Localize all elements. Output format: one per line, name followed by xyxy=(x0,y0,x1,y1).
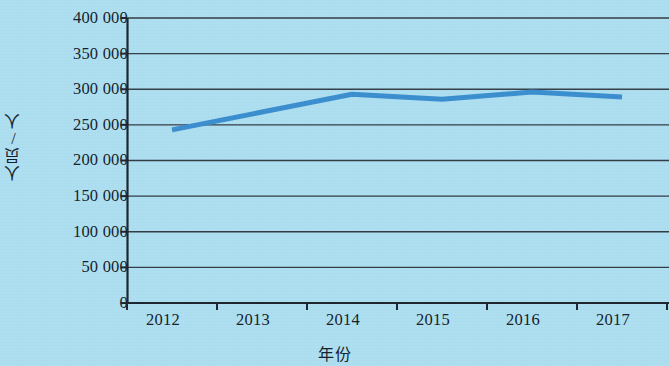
gridlines xyxy=(127,18,669,267)
y-axis-tick-marks xyxy=(121,18,127,303)
line-chart-figure: 人员/人 年份 400 000 350 000 300 000 250 000 … xyxy=(0,0,669,366)
data-series-line xyxy=(172,92,622,130)
plot-area xyxy=(0,0,669,366)
